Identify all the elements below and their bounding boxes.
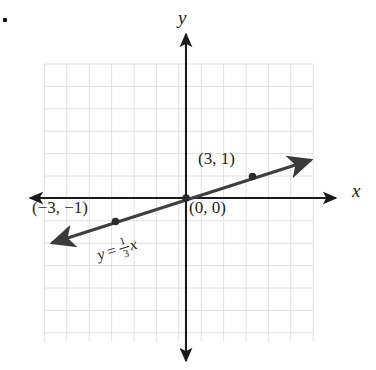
point-label-neg3-neg1: (−3, −1) [32,199,88,216]
y-axis-label: y [178,8,186,27]
equation-equals-sign: = [105,241,119,261]
point-label-origin: (0, 0) [189,199,226,216]
coordinate-plane-plot [0,0,376,370]
data-point-neg3-neg1 [112,218,120,226]
coordinate-plane-figure: y x (3, 1) (0, 0) (−3, −1) y = 1 3 x [0,0,376,370]
plotted-line [52,160,311,243]
point-label-3-1: (3, 1) [198,150,235,167]
x-axis-label: x [352,181,360,200]
data-point-3-1 [249,173,257,181]
